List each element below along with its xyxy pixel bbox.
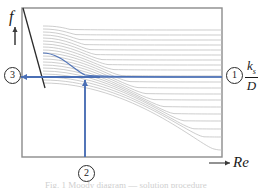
x-axis-label: Re xyxy=(233,155,249,170)
marker-three: 3 xyxy=(4,67,21,84)
relative-roughness-numerator: ks xyxy=(245,59,258,78)
y-axis-label: f xyxy=(9,9,13,25)
figure-caption-clipped: Fig. 1 Moody diagram — solution procedur… xyxy=(45,180,220,188)
marker-one: 1 xyxy=(226,67,243,84)
relative-roughness-label: ks D xyxy=(245,59,258,93)
moody-diagram xyxy=(0,0,266,188)
relative-roughness-denominator: D xyxy=(245,78,258,93)
